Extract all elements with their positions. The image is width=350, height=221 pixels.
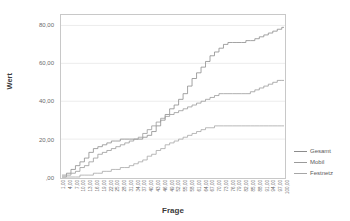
plot-svg [61,15,285,178]
x-axis-tick-label: 82,00 [244,180,249,192]
x-axis-tick-label: 19,00 [102,180,107,192]
legend-item-label: Mobil [310,159,324,165]
x-axis-tick-label: 88,00 [258,180,263,192]
x-axis-tick-label: 28,00 [122,180,127,192]
legend-item[interactable]: Gesamt [294,146,348,156]
series-lines [62,27,284,177]
legend-item-label: Gesamt [310,148,331,154]
x-axis-tick-label: 31,00 [129,180,134,192]
x-axis-tick-label: 100,00 [285,180,290,194]
y-axis-tick-label: 80,00 [39,22,54,28]
legend-item-label: Festnetz [310,170,333,176]
x-axis-tick-label: 40,00 [149,180,154,192]
x-axis-tick-labels: 1,004,007,0010,0013,0016,0019,0022,0025,… [60,180,286,206]
x-axis-tick-label: 91,00 [265,180,270,192]
x-axis-tick-label: 55,00 [183,180,188,192]
x-axis-tick-label: 25,00 [115,180,120,192]
x-axis-tick-label: 70,00 [217,180,222,192]
x-axis-tick-label: 22,00 [109,180,114,192]
series-line [62,80,284,177]
x-axis-tick-label: 52,00 [176,180,181,192]
x-axis-tick-label: 34,00 [136,180,141,192]
x-axis-tick-label: 13,00 [88,180,93,192]
y-axis-tick-label: 60,00 [39,60,54,66]
x-axis-tick-label: 4,00 [68,180,73,189]
legend-item[interactable]: Mobil [294,157,348,167]
chart-legend: GesamtMobilFestnetz [294,146,348,179]
y-axis-tick-label: ,00 [46,175,54,181]
x-axis-tick-label: 46,00 [163,180,168,192]
y-axis-title: Wert [5,76,14,90]
legend-line-icon [294,151,307,152]
x-axis-title: Frage [60,206,286,215]
x-axis-tick-label: 76,00 [231,180,236,192]
x-axis-tick-label: 49,00 [170,180,175,192]
x-axis-tick-label: 37,00 [142,180,147,192]
x-axis-tick-label: 79,00 [237,180,242,192]
x-axis-tick-label: 67,00 [210,180,215,192]
chart-container: Wert ,0020,0040,0060,0080,00 1,004,007,0… [0,0,350,221]
x-axis-tick-label: 97,00 [278,180,283,192]
legend-line-icon [294,173,307,174]
legend-item[interactable]: Festnetz [294,168,348,178]
y-axis-tick-labels: ,0020,0040,0060,0080,00 [14,0,58,221]
y-axis-tick-label: 20,00 [39,137,54,143]
x-axis-tick-label: 1,00 [61,180,66,189]
x-axis-tick-label: 73,00 [224,180,229,192]
series-line [62,126,284,177]
x-axis-tick-label: 61,00 [197,180,202,192]
x-axis-tick-label: 94,00 [271,180,276,192]
plot-area [60,14,286,179]
x-axis-tick-label: 16,00 [95,180,100,192]
gridlines [61,25,285,139]
x-axis-tick-label: 85,00 [251,180,256,192]
x-axis-tick-label: 7,00 [75,180,80,189]
y-axis-tick-label: 40,00 [39,98,54,104]
x-axis-tick-label: 64,00 [204,180,209,192]
legend-line-icon [294,162,307,163]
x-axis-tick-label: 43,00 [156,180,161,192]
x-axis-tick-label: 58,00 [190,180,195,192]
x-axis-tick-label: 10,00 [81,180,86,192]
